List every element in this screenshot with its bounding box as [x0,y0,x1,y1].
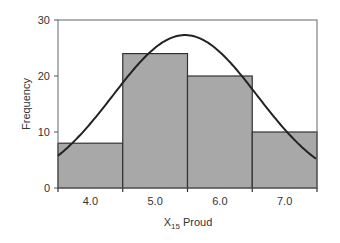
y-tick-label: 0 [44,182,50,194]
x-tick-label: 6.0 [212,195,227,207]
y-tick-label: 10 [38,126,50,138]
histogram-bar [58,143,123,188]
y-tick-label: 30 [38,14,50,26]
y-tick-label: 20 [38,70,50,82]
y-axis-title: Frequency [20,78,32,130]
histogram-chart: 0102030 4.05.06.07.0 Frequency X15 Proud [0,0,340,243]
histogram-bar [188,76,253,188]
y-axis-ticks: 0102030 [38,14,58,194]
histogram-bar [252,132,317,188]
histogram-bar [123,54,188,188]
x-tick-label: 5.0 [147,195,162,207]
x-tick-label: 4.0 [83,195,98,207]
x-axis-ticks: 4.05.06.07.0 [58,188,317,207]
x-tick-label: 7.0 [277,195,292,207]
x-axis-title: X15 Proud [164,216,213,231]
